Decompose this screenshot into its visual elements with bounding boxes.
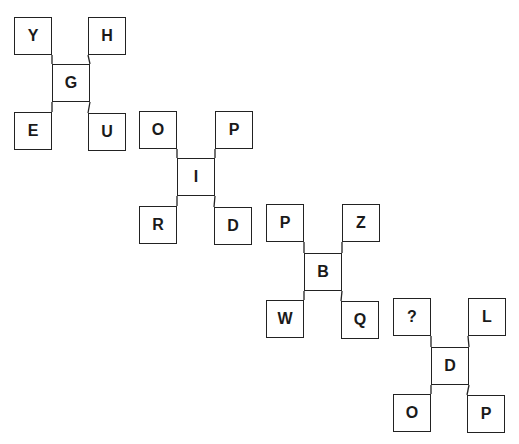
group-4-top-left-box-missing: ?	[393, 298, 431, 336]
group-1-center-box: G	[52, 64, 90, 102]
group-1-bottom-left-box: E	[14, 112, 52, 150]
group-4-center-box: D	[431, 347, 469, 385]
group-2-top-left-box: O	[139, 111, 177, 149]
group-2-bottom-left-box: R	[139, 206, 177, 244]
group-2-top-right-box: P	[215, 111, 253, 149]
group-1-top-left-box: Y	[14, 17, 52, 55]
group-4-top-right-box: L	[468, 298, 506, 336]
group-3-top-right-box: Z	[342, 204, 380, 242]
group-4-bottom-right-box: P	[467, 395, 505, 433]
group-1-bottom-right-box: U	[88, 113, 126, 151]
group-3-center-box: B	[304, 253, 342, 291]
group-1-top-right-box: H	[88, 17, 126, 55]
group-4-bottom-left-box: O	[393, 394, 431, 432]
group-2-center-box: I	[177, 158, 215, 196]
puzzle-diagram: Y H G E U O P I R D P Z B W Q ? L D O P	[0, 0, 519, 444]
group-3-bottom-left-box: W	[266, 300, 304, 338]
group-3-bottom-right-box: Q	[341, 301, 379, 339]
group-3-top-left-box: P	[266, 204, 304, 242]
group-2-bottom-right-box: D	[214, 207, 252, 245]
